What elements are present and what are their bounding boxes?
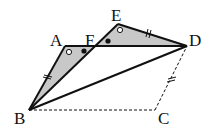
angle-mark-open-E [117,27,122,32]
segment-BE [29,24,118,110]
label-E: E [111,6,121,25]
label-F: F [85,31,94,50]
label-C: C [158,109,169,128]
label-A: A [50,31,63,50]
label-D: D [189,31,201,50]
label-B: B [14,109,25,128]
equal-tick-CD [167,77,176,82]
angle-mark-open-A [66,49,71,54]
angle-mark-filled-F2 [105,38,110,43]
geometry-diagram: A F E D B C [0,0,214,134]
